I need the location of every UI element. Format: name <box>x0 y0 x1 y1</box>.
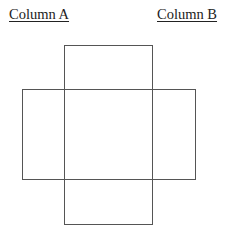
vertical-rectangle <box>65 46 153 225</box>
horizontal-rectangle <box>23 90 196 180</box>
cross-diagram <box>0 0 227 242</box>
